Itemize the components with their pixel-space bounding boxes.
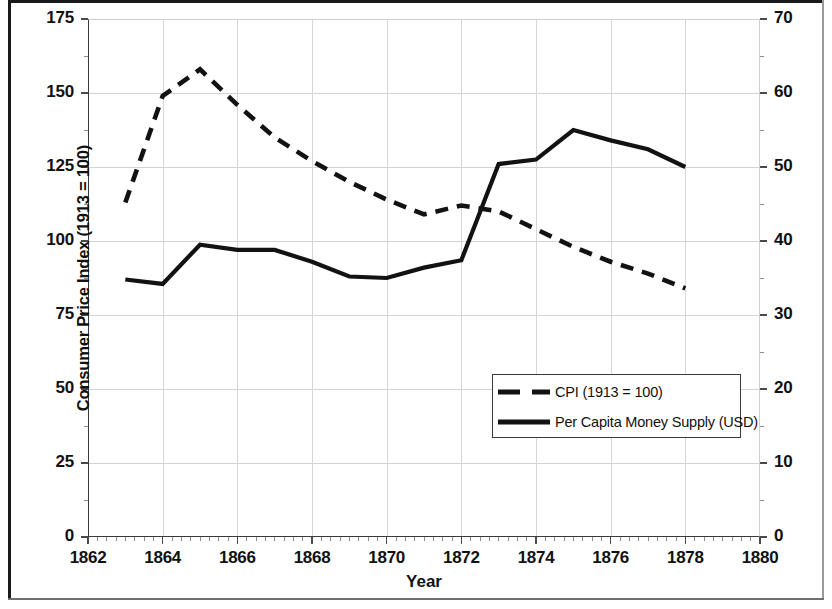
x-tick-minor	[125, 537, 126, 541]
x-tick-minor	[666, 537, 667, 541]
x-tick-minor	[545, 537, 546, 541]
x-tick-minor	[368, 537, 369, 541]
x-tick-minor	[713, 537, 714, 541]
chart-legend[interactable]: CPI (1913 = 100) Per Capita Money Supply…	[492, 374, 741, 438]
x-tick-minor	[554, 537, 555, 541]
x-tick-minor	[517, 537, 518, 541]
frame-bottom-border	[8, 598, 824, 600]
x-tick-minor	[349, 537, 350, 541]
x-tick	[461, 537, 462, 544]
x-tick-minor	[200, 537, 201, 541]
y2-tick-minor	[760, 278, 764, 279]
y2-tick-minor	[760, 352, 764, 353]
x-tick-minor	[452, 537, 453, 541]
x-tick-minor	[676, 537, 677, 541]
legend-item-money-supply[interactable]: Per Capita Money Supply (USD)	[493, 406, 740, 438]
x-tick-minor	[172, 537, 173, 541]
frame-top-border	[8, 0, 824, 3]
y-tick-label: 0	[12, 526, 74, 546]
y2-tick	[760, 240, 767, 241]
y-tick-label: 50	[12, 378, 74, 398]
x-tick-minor	[601, 537, 602, 541]
x-tick-minor	[657, 537, 658, 541]
legend-label-cpi: CPI (1913 = 100)	[555, 384, 663, 400]
x-tick-minor	[134, 537, 135, 541]
x-tick	[87, 537, 88, 544]
y-tick-label: 25	[12, 452, 74, 472]
x-tick-minor	[433, 537, 434, 541]
legend-swatch-dashed-icon	[493, 387, 555, 397]
x-tick-minor	[480, 537, 481, 541]
y-tick-label: 175	[12, 8, 74, 28]
x-tick-minor	[340, 537, 341, 541]
y2-tick	[760, 536, 767, 537]
x-tick-minor	[246, 537, 247, 541]
y2-tick	[760, 92, 767, 93]
y2-tick-label: 40	[774, 230, 793, 250]
x-tick	[237, 537, 238, 544]
y-tick-label: 100	[12, 230, 74, 250]
y2-tick-label: 70	[774, 8, 793, 28]
x-tick-minor	[97, 537, 98, 541]
x-tick-minor	[470, 537, 471, 541]
x-tick-minor	[750, 537, 751, 541]
x-tick-minor	[508, 537, 509, 541]
x-tick	[685, 537, 686, 544]
x-tick-minor	[377, 537, 378, 541]
x-tick-minor	[498, 537, 499, 541]
x-tick-minor	[321, 537, 322, 541]
x-tick-minor	[405, 537, 406, 541]
x-tick-minor	[302, 537, 303, 541]
y2-tick-minor	[760, 204, 764, 205]
x-tick-minor	[424, 537, 425, 541]
x-tick-minor	[256, 537, 257, 541]
x-tick	[759, 537, 760, 544]
series-line-cpi	[125, 69, 685, 288]
x-tick-minor	[526, 537, 527, 541]
x-tick-minor	[722, 537, 723, 541]
x-tick	[535, 537, 536, 544]
legend-swatch-solid-icon	[493, 417, 555, 427]
y2-tick	[760, 388, 767, 389]
x-tick-minor	[564, 537, 565, 541]
y2-tick-label: 50	[774, 156, 793, 176]
x-tick-minor	[190, 537, 191, 541]
x-tick-minor	[116, 537, 117, 541]
x-tick-minor	[592, 537, 593, 541]
y2-tick-minor	[760, 56, 764, 57]
frame-right-border	[822, 0, 824, 600]
y2-tick-label: 10	[774, 452, 793, 472]
x-tick-minor	[442, 537, 443, 541]
y2-tick-label: 60	[774, 82, 793, 102]
x-tick-minor	[181, 537, 182, 541]
x-tick-minor	[293, 537, 294, 541]
x-tick-minor	[704, 537, 705, 541]
x-tick-minor	[144, 537, 145, 541]
y2-tick-label: 30	[774, 304, 793, 324]
x-tick-minor	[218, 537, 219, 541]
y2-tick-minor	[760, 130, 764, 131]
y2-tick	[760, 462, 767, 463]
x-tick-minor	[209, 537, 210, 541]
y2-tick-label: 0	[774, 526, 783, 546]
y2-tick-minor	[760, 500, 764, 501]
x-tick	[311, 537, 312, 544]
x-tick-minor	[396, 537, 397, 541]
y2-tick	[760, 166, 767, 167]
y-tick-label: 75	[12, 304, 74, 324]
x-axis-title: Year	[88, 572, 760, 592]
x-tick-minor	[638, 537, 639, 541]
legend-item-cpi[interactable]: CPI (1913 = 100)	[493, 376, 740, 408]
x-tick-minor	[489, 537, 490, 541]
data-series-layer	[88, 19, 760, 537]
x-tick-minor	[629, 537, 630, 541]
y-tick-label: 125	[12, 156, 74, 176]
x-tick-minor	[228, 537, 229, 541]
x-tick-minor	[573, 537, 574, 541]
x-tick-minor	[732, 537, 733, 541]
y2-tick-label: 20	[774, 378, 793, 398]
legend-label-money-supply: Per Capita Money Supply (USD)	[555, 414, 758, 430]
x-tick-minor	[694, 537, 695, 541]
x-tick-minor	[741, 537, 742, 541]
x-tick	[162, 537, 163, 544]
